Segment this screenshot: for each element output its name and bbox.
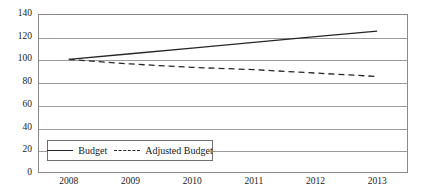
y-axis-tick-label: 40 <box>23 123 33 133</box>
gridline <box>39 38 407 39</box>
x-axis-tick-label: 2010 <box>183 176 202 187</box>
y-axis-tick-label: 140 <box>18 9 32 19</box>
legend-item[interactable]: Budget <box>47 146 107 156</box>
legend-label: Adjusted Budget <box>145 146 213 156</box>
y-axis-tick-label: 100 <box>18 54 32 64</box>
x-axis-tick-label: 2008 <box>59 176 78 187</box>
gridline <box>39 129 407 130</box>
x-axis-tick-labels: 200820092010201120122013 <box>0 176 426 194</box>
y-axis-tick-labels: 020406080100120140 <box>0 0 36 196</box>
gridline <box>39 83 407 84</box>
x-axis-tick-label: 2011 <box>245 176 264 187</box>
x-axis-tick-label: 2009 <box>121 176 140 187</box>
line-chart: 020406080100120140 200820092010201120122… <box>0 0 426 196</box>
y-axis-tick-label: 20 <box>23 145 33 155</box>
y-axis-tick-label: 80 <box>23 77 33 87</box>
y-axis-tick-label: 120 <box>18 32 32 42</box>
gridline <box>39 60 407 61</box>
gridline <box>39 106 407 107</box>
x-axis-tick-label: 2013 <box>368 176 387 187</box>
legend-item[interactable]: Adjusted Budget <box>114 146 213 156</box>
chart-legend: BudgetAdjusted Budget <box>47 140 213 161</box>
dashed-line-key-icon <box>114 147 140 155</box>
y-axis-tick-label: 60 <box>23 100 33 110</box>
solid-line-key-icon <box>47 147 73 155</box>
x-axis-tick-label: 2012 <box>306 176 325 187</box>
legend-label: Budget <box>78 146 107 156</box>
